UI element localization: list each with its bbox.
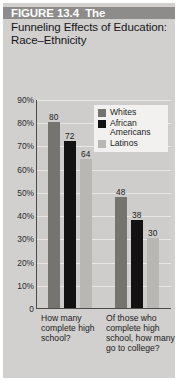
legend-swatch-icon	[98, 140, 106, 148]
legend-swatch-icon	[98, 120, 106, 128]
figure-number-line: FIGURE 13.4 The	[11, 7, 105, 19]
legend-item[interactable]: Whites	[98, 108, 165, 118]
legend-item[interactable]: African Americans	[98, 119, 165, 138]
figure-title-body: Funneling Effects of Education: Race–Eth…	[11, 21, 169, 48]
chart-legend: WhitesAfrican AmericansLatinos	[94, 105, 168, 152]
figure-title-head: The	[85, 7, 105, 19]
y-tick-label: 90%	[5, 96, 34, 105]
bar-african-americans-0	[64, 141, 76, 308]
y-tick-label: 50%	[5, 189, 34, 198]
figure-container: FIGURE 13.4 The Funneling Effects of Edu…	[3, 3, 175, 378]
legend-item-label: Latinos	[110, 139, 138, 149]
figure-number: FIGURE 13.4	[11, 7, 79, 19]
bar-value-label: 72	[65, 132, 74, 141]
bar-value-label: 38	[132, 211, 141, 220]
legend-swatch-icon	[98, 109, 106, 117]
y-axis: 90%80%70%60%50%40%30%20%10%0	[3, 100, 34, 312]
legend-item-label: Whites	[110, 108, 136, 118]
y-tick-label: 40%	[5, 212, 34, 221]
bar-latinos-0	[80, 159, 92, 308]
bar-value-label: 80	[49, 113, 58, 122]
plot-area: 807264483830 WhitesAfrican AmericansLati…	[36, 100, 171, 309]
y-tick-label: 80%	[5, 119, 34, 128]
bar-whites-0	[48, 122, 60, 308]
y-tick-label: 0	[5, 305, 34, 314]
bar-african-americans-1	[131, 220, 143, 308]
bar-latinos-1	[147, 238, 159, 308]
category-label-1: Of those who complete high school, how m…	[106, 313, 176, 353]
bar-value-label: 48	[116, 188, 125, 197]
y-tick-label: 10%	[5, 282, 34, 291]
legend-item-label: African Americans	[110, 119, 165, 138]
bar-value-label: 64	[81, 150, 90, 159]
y-tick-label: 30%	[5, 235, 34, 244]
legend-item[interactable]: Latinos	[98, 139, 165, 149]
y-tick-label: 70%	[5, 142, 34, 151]
figure-title: FIGURE 13.4 The Funneling Effects of Edu…	[11, 7, 169, 48]
bar-value-label: 30	[148, 229, 157, 238]
y-tick-label: 20%	[5, 259, 34, 268]
bar-whites-1	[115, 197, 127, 308]
gridline	[37, 100, 171, 101]
category-label-0: How many complete high school?	[41, 313, 103, 343]
y-tick-label: 60%	[5, 166, 34, 175]
